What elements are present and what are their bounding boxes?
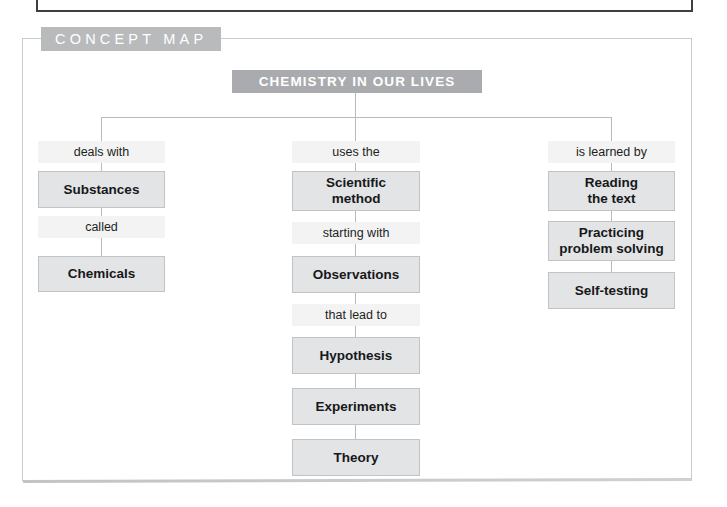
connector-right-node1-to-node2	[611, 211, 612, 221]
node-hypothesis: Hypothesis	[292, 337, 420, 374]
connector-left-bus-drop	[101, 117, 102, 143]
connector-root-stem	[355, 93, 356, 117]
caption-left-called: called	[38, 216, 165, 238]
node-self-testing: Self-testing	[548, 272, 675, 309]
node-chemicals: Chemicals	[38, 256, 165, 292]
connector-center-caption3-to-node3	[355, 326, 356, 337]
node-experiments-label: Experiments	[315, 399, 396, 415]
node-experiments: Experiments	[292, 388, 420, 425]
connector-left-caption1-to-node1	[101, 163, 102, 171]
connector-center-node3-to-node4	[355, 374, 356, 388]
node-theory: Theory	[292, 439, 420, 476]
connector-right-bus-drop	[611, 117, 612, 141]
node-scientific-method: Scientific method	[292, 171, 420, 211]
connector-branch-bus	[101, 117, 611, 118]
previous-section-frame	[36, 0, 693, 12]
node-substances: Substances	[38, 171, 165, 208]
node-scientific-method-line-2: method	[326, 191, 386, 207]
node-practicing-problem-solving-line-2: problem solving	[559, 241, 663, 257]
node-self-testing-label: Self-testing	[575, 283, 649, 299]
node-observations: Observations	[292, 256, 420, 293]
caption-center-starting-with-text: starting with	[323, 226, 390, 240]
node-practicing-problem-solving-line-1: Practicing	[559, 225, 663, 241]
node-practicing-problem-solving: Practicing problem solving	[548, 221, 675, 261]
concept-map-ribbon-label: CONCEPT MAP	[55, 31, 207, 47]
caption-right-is-learned-by-text: is learned by	[576, 145, 647, 159]
connector-center-caption2-to-node2	[355, 244, 356, 256]
connector-center-node2-to-caption3	[355, 293, 356, 304]
connector-center-node1-to-caption2	[355, 211, 356, 222]
node-reading-the-text-label: Reading the text	[585, 175, 638, 207]
root-title-band: CHEMISTRY IN OUR LIVES	[232, 70, 482, 93]
caption-left-deals-with: deals with	[38, 141, 165, 163]
concept-map-page: CONCEPT MAP CHEMISTRY IN OUR LIVES deals…	[0, 0, 727, 507]
connector-right-caption1-to-node1	[611, 163, 612, 171]
root-title-label: CHEMISTRY IN OUR LIVES	[259, 74, 456, 89]
caption-right-is-learned-by: is learned by	[548, 141, 675, 163]
node-hypothesis-label: Hypothesis	[320, 348, 393, 364]
node-observations-label: Observations	[313, 267, 399, 283]
caption-left-called-text: called	[85, 220, 118, 234]
node-reading-the-text: Reading the text	[548, 171, 675, 211]
caption-center-that-lead-to: that lead to	[292, 304, 420, 326]
connector-left-node1-to-caption2	[101, 208, 102, 216]
node-scientific-method-label: Scientific method	[326, 175, 386, 207]
node-reading-the-text-line-2: the text	[585, 191, 638, 207]
node-theory-label: Theory	[333, 450, 378, 466]
caption-center-uses-the-text: uses the	[332, 145, 379, 159]
connector-center-bus-drop	[355, 117, 356, 141]
node-reading-the-text-line-1: Reading	[585, 175, 638, 191]
node-substances-label: Substances	[64, 182, 140, 198]
node-scientific-method-line-1: Scientific	[326, 175, 386, 191]
node-practicing-problem-solving-label: Practicing problem solving	[559, 225, 663, 257]
connector-left-caption2-to-node2	[101, 238, 102, 256]
caption-center-that-lead-to-text: that lead to	[325, 308, 387, 322]
concept-map-ribbon: CONCEPT MAP	[41, 27, 221, 51]
caption-left-deals-with-text: deals with	[74, 145, 130, 159]
connector-right-node2-to-node3	[611, 261, 612, 272]
caption-center-starting-with: starting with	[292, 222, 420, 244]
caption-center-uses-the: uses the	[292, 141, 420, 163]
node-chemicals-label: Chemicals	[68, 266, 136, 282]
connector-center-node4-to-node5	[355, 425, 356, 439]
connector-center-caption1-to-node1	[355, 163, 356, 171]
